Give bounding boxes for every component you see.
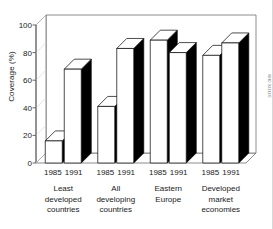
bar-1991-4 <box>222 33 249 163</box>
x-year-label: 1991 <box>222 168 240 177</box>
bar-1991-3 <box>169 43 196 163</box>
x-year-label: 1985 <box>44 168 62 177</box>
x-year-label: 1991 <box>170 168 188 177</box>
x-group-name-line: countries <box>84 205 148 216</box>
x-group-years-3: 19851991 <box>144 168 192 177</box>
x-year-label: 1985 <box>201 168 219 177</box>
x-group-years-1: 19851991 <box>39 168 87 177</box>
x-group-years-2: 19851991 <box>92 168 140 177</box>
x-group-name-line: market <box>189 195 253 206</box>
x-group-name-line: economies <box>189 205 253 216</box>
x-year-label: 1985 <box>149 168 167 177</box>
bar-1991-1 <box>64 59 91 163</box>
x-group-name-line: Developed <box>189 184 253 195</box>
x-year-label: 1991 <box>117 168 135 177</box>
chart-figure: Coverage (%) 020406080100 19851991Leastd… <box>0 0 273 229</box>
bar-1991-2 <box>117 38 144 163</box>
x-year-label: 1985 <box>96 168 114 177</box>
x-year-label: 1991 <box>65 168 83 177</box>
source-credit: WHO 93313/E <box>267 74 271 98</box>
x-group-name-4: Developedmarketeconomies <box>189 184 253 216</box>
x-group-years-4: 19851991 <box>197 168 245 177</box>
right-rule <box>272 0 273 229</box>
